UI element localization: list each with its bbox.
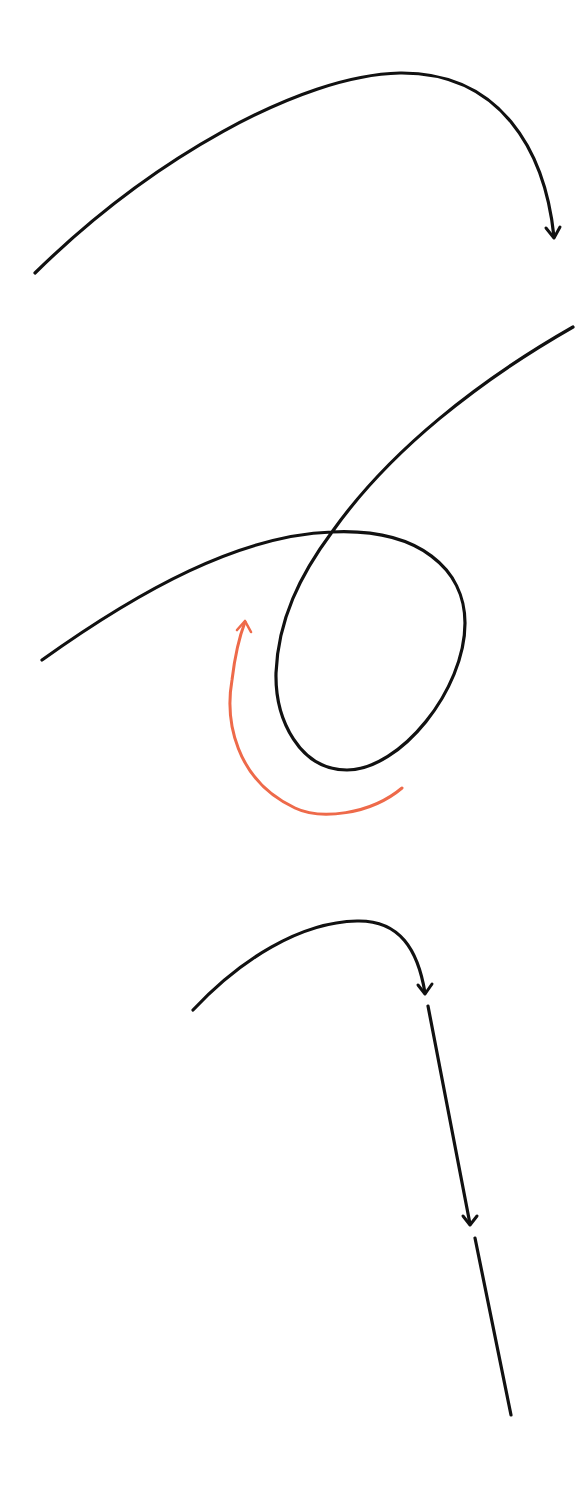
- loop-path: [42, 327, 573, 770]
- short-arc-path: [193, 921, 425, 1010]
- direction-arrow: [230, 622, 402, 814]
- loop-panel: [42, 327, 573, 814]
- arc-segments-panel: [193, 921, 511, 1415]
- arc-path: [35, 73, 554, 273]
- diagram-canvas: [0, 0, 583, 1495]
- segment-path: [428, 1006, 470, 1224]
- arc-arrow-panel: [35, 73, 560, 273]
- segment-path: [475, 1238, 511, 1415]
